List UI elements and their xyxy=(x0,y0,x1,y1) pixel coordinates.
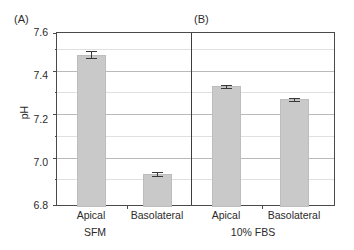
y-tick-label-7-6: 7.6 xyxy=(0,27,48,38)
x-label-basolateral-sfm: Basolateral xyxy=(117,209,197,221)
y-axis-tick-7-4 xyxy=(53,71,57,72)
error-bar-cap-top-basolateral-fbs xyxy=(289,98,300,99)
y-tick-label-7-2: 7.2 xyxy=(0,114,48,125)
error-bar-cap-top-basolateral-sfm xyxy=(152,172,163,173)
x-label-basolateral-fbs: Basolateral xyxy=(254,209,334,221)
y-axis-tick-minor-6-9 xyxy=(55,179,58,180)
y-axis-tick-minor-7-3 xyxy=(55,92,58,93)
error-bar-cap-bottom-basolateral-sfm xyxy=(152,176,163,177)
bar-apical-fbs xyxy=(212,86,241,207)
y-tick-label-7-0: 7.0 xyxy=(0,157,48,168)
gridline-minor-7-5 xyxy=(57,49,334,50)
y-axis-tick-7-6 xyxy=(53,33,57,34)
y-axis-tick-7-0 xyxy=(53,158,57,159)
panel-b-letter: (B) xyxy=(194,13,209,25)
y-tick-label-6-8: 6.8 xyxy=(0,200,48,211)
bar-basolateral-sfm xyxy=(143,174,172,207)
y-axis-tick-7-2 xyxy=(53,114,57,115)
y-axis-tick-minor-7-5 xyxy=(55,49,58,50)
error-bar-cap-bottom-basolateral-fbs xyxy=(289,101,300,102)
y-axis-tick-6-8 xyxy=(53,205,57,206)
group-label-fbs: 10% FBS xyxy=(208,226,298,238)
error-bar-cap-bottom-apical-fbs xyxy=(221,88,232,89)
bar-apical-sfm xyxy=(77,55,106,207)
error-bar-cap-bottom-apical-sfm xyxy=(86,58,97,59)
group-label-sfm: SFM xyxy=(50,226,140,238)
y-axis-tick-minor-7-1 xyxy=(55,136,58,137)
bar-basolateral-fbs xyxy=(280,99,309,207)
plot-area xyxy=(56,32,335,206)
y-tick-label-7-4: 7.4 xyxy=(0,70,48,81)
panel-a-letter: (A) xyxy=(14,13,29,25)
panel-divider xyxy=(191,33,192,205)
ph-bar-chart-figure: (A) (B) pH 7.6 7.4 7.2 7.0 6.8 xyxy=(0,0,354,250)
error-bar-cap-top-apical-sfm xyxy=(86,51,97,52)
error-bar-cap-top-apical-fbs xyxy=(221,85,232,86)
